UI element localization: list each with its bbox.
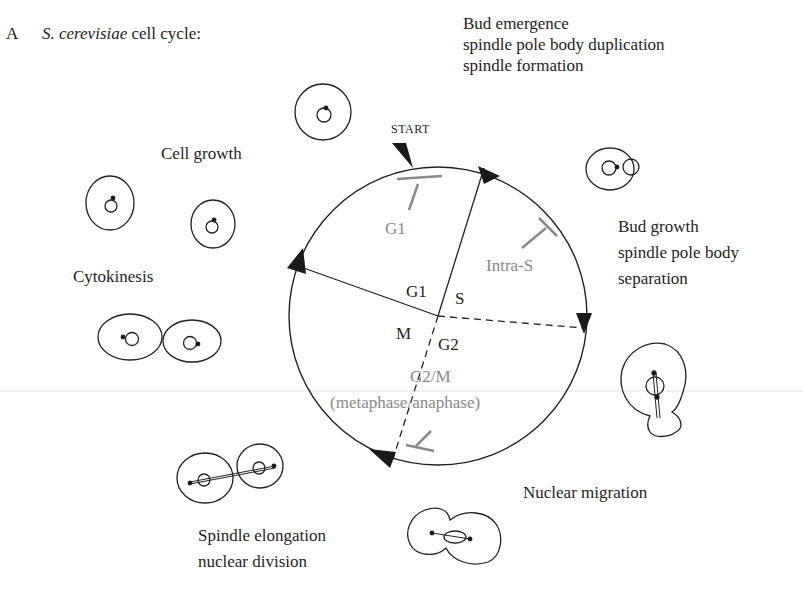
checkpoint-intra-s-label: Intra-S: [486, 255, 533, 276]
label-spb-duplication: spindle pole body duplication: [463, 34, 665, 55]
cell-growth-cell-top: [295, 84, 351, 140]
phase-g2-label: G2: [438, 334, 459, 355]
panel-label: A: [6, 23, 18, 44]
spindle-elongation-cells: [177, 444, 283, 503]
arrowhead-m-start: [369, 449, 396, 468]
label-bud-emergence: Bud emergence: [463, 13, 569, 34]
label-bud-growth: Bud growth: [618, 216, 699, 237]
checkpoint-g1-symbol: [397, 176, 442, 210]
label-nuclear-division: nuclear division: [198, 551, 307, 572]
title-rest: cell cycle:: [132, 24, 201, 43]
arrowhead-g1-start: [287, 248, 306, 274]
label-spindle-elongation: Spindle elongation: [198, 525, 326, 546]
phase-s-label: S: [455, 288, 464, 309]
label-nuclear-migration: Nuclear migration: [523, 482, 647, 503]
start-marker-icon: [392, 143, 413, 168]
budding-cell-small: [586, 148, 639, 190]
checkpoint-g2m-sublabel: (metaphase/anaphase): [330, 392, 480, 413]
cell-growth-cell-mid: [191, 200, 235, 248]
label-separation: separation: [618, 268, 688, 289]
label-cell-growth: Cell growth: [161, 143, 242, 164]
label-spindle-formation: spindle formation: [463, 55, 583, 76]
phase-g1-label: G1: [406, 281, 427, 302]
label-cytokinesis: Cytokinesis: [73, 266, 153, 287]
arrowhead-s-start: [478, 166, 500, 184]
cytokinesis-cells: [98, 314, 221, 362]
boundary-s-g2: [438, 316, 583, 328]
arrowhead-g2-start: [576, 313, 592, 334]
cell-growth-cell-left: [86, 176, 134, 230]
figure-title: S. cerevisiae cell cycle:: [42, 23, 201, 44]
phase-m-label: M: [396, 323, 411, 344]
cell-cycle-diagram: [0, 0, 803, 609]
checkpoint-g1-label: G1: [385, 218, 406, 239]
organism-name: S. cerevisiae: [42, 24, 127, 43]
start-label: START: [391, 122, 430, 136]
nuclear-migration-cell: [408, 508, 501, 564]
large-bud-cell-with-spindle: [621, 343, 686, 436]
checkpoint-g2m-symbol: [406, 431, 434, 451]
label-spb-label: spindle pole body: [618, 242, 739, 263]
checkpoint-g2m-label: G2/M: [410, 366, 451, 387]
checkpoint-intra-s-symbol: [522, 218, 557, 248]
